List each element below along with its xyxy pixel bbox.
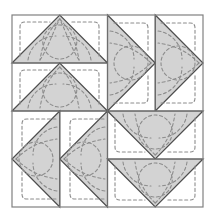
quilt-block-svg [0, 0, 215, 222]
quilt-block-figure [0, 0, 215, 222]
